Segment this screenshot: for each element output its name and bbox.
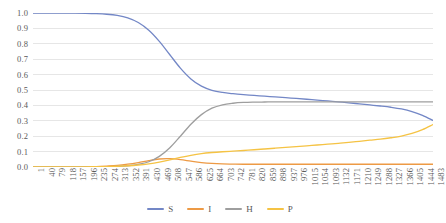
x-axis-tick-label: 937: [289, 168, 299, 181]
gridlines: [33, 13, 433, 167]
legend-label: H: [246, 205, 253, 214]
x-axis-tick-label: 40: [47, 168, 57, 177]
x-axis-tick-label: 430: [152, 168, 162, 181]
legend-swatch-icon: [225, 208, 242, 210]
x-axis-tick-label: 391: [141, 168, 151, 181]
x-axis-tick-label: 664: [215, 168, 225, 181]
x-axis-tick-label: 1171: [352, 168, 362, 185]
series-line-p: [33, 125, 433, 168]
legend-item-s[interactable]: S: [147, 205, 173, 214]
x-axis-tick-label: 235: [99, 168, 109, 181]
legend-item-h[interactable]: H: [225, 205, 253, 214]
legend-swatch-icon: [187, 208, 204, 210]
y-axis-tick-label: 0.8: [17, 39, 28, 49]
x-axis-tick-label: 976: [299, 168, 309, 181]
y-axis-tick-label: 0.9: [17, 23, 28, 33]
x-axis-tick-label: 586: [194, 168, 204, 181]
x-axis-tick-label: 703: [226, 168, 236, 181]
x-axis-tick-label: 1405: [415, 168, 425, 185]
legend-item-i[interactable]: I: [187, 205, 211, 214]
x-axis-tick-label: 859: [268, 168, 278, 181]
x-axis-tick-label: 1015: [310, 168, 320, 185]
x-axis-tick-label: 1288: [384, 168, 394, 185]
x-axis-tick-label: 157: [78, 168, 88, 181]
x-axis-tick-label: 742: [236, 168, 246, 181]
y-axis-tick-label: 0.5: [17, 85, 28, 95]
y-axis-tick-label: 0.2: [17, 131, 28, 141]
chart-legend: SIHP: [0, 202, 440, 216]
x-axis-tick-label: 1093: [331, 168, 341, 185]
x-axis-tick-label: 469: [163, 168, 173, 181]
y-axis-tick-label: 0.4: [17, 100, 28, 110]
x-axis-tick-label: 898: [278, 168, 288, 181]
x-axis-tick-label: 1444: [426, 168, 436, 185]
legend-swatch-icon: [267, 208, 284, 210]
x-axis-tick-label: 274: [110, 168, 120, 181]
x-axis-tick-label: 547: [184, 168, 194, 181]
y-axis-tick-label: 0.7: [17, 54, 28, 64]
x-axis: 1407911815719623527431335239143046950854…: [33, 168, 433, 200]
series-line-i: [33, 159, 433, 167]
x-axis-tick-label: 79: [57, 168, 67, 177]
legend-item-p[interactable]: P: [267, 205, 293, 214]
plot-area: [33, 13, 433, 167]
y-axis-tick-label: 0.6: [17, 70, 28, 80]
x-axis-tick-label: 118: [68, 168, 78, 181]
x-axis-tick-label: 352: [131, 168, 141, 181]
x-axis-tick-label: 1366: [405, 168, 415, 185]
series-line-h: [33, 102, 433, 167]
x-axis-tick-label: 313: [120, 168, 130, 181]
x-axis-tick-label: 196: [89, 168, 99, 181]
x-axis-tick-label: 1054: [320, 168, 330, 185]
x-axis-tick-label: 508: [173, 168, 183, 181]
y-axis-tick-label: 0.3: [17, 116, 28, 126]
x-axis-tick-label: 1327: [394, 168, 404, 185]
y-axis-tick-label: 0.0: [17, 162, 28, 172]
legend-label: P: [288, 205, 293, 214]
x-axis-tick-label: 1: [36, 168, 46, 172]
x-axis-tick-label: 1210: [363, 168, 373, 185]
legend-label: I: [208, 205, 211, 214]
x-axis-tick-label: 1132: [341, 168, 351, 185]
series-line-s: [33, 13, 433, 120]
legend-swatch-icon: [147, 208, 164, 210]
x-axis-tick-label: 1249: [373, 168, 383, 185]
x-axis-tick-label: 1483: [436, 168, 446, 185]
x-axis-tick-label: 820: [257, 168, 267, 181]
y-axis-tick-label: 1.0: [17, 8, 28, 18]
plot-svg: [33, 13, 433, 167]
x-axis-tick-label: 781: [247, 168, 257, 181]
y-axis-tick-label: 0.1: [17, 147, 28, 157]
x-axis-tick-label: 625: [205, 168, 215, 181]
y-axis: 0.00.10.20.30.40.50.60.70.80.91.0: [0, 13, 31, 167]
legend-label: S: [168, 205, 173, 214]
